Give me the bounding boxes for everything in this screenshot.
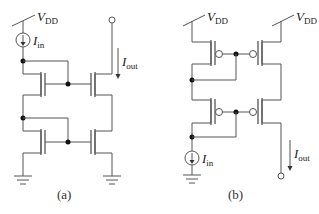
vdd-label-a: VDD [37, 9, 58, 26]
panel-b: VDD VDD [183, 9, 317, 202]
pmos-transistor-icon [192, 98, 223, 125]
arrow-down-icon [116, 48, 121, 79]
caption-b: (b) [228, 187, 243, 202]
iin-label-a: Iin [32, 33, 45, 50]
iin-label-b: Iin [201, 151, 214, 168]
panel-a: VDD Iin [12, 9, 138, 202]
ground-icon [103, 176, 121, 184]
iout-label-b: Iout [293, 146, 310, 163]
pmos-transistor-icon [250, 40, 282, 66]
pmos-transistor-icon [250, 98, 282, 125]
current-source-icon [16, 33, 30, 47]
arrow-down-icon [288, 140, 293, 171]
nmos-transistor-icon [91, 72, 112, 97]
nmos-transistor-icon [23, 72, 45, 97]
ground-icon [14, 176, 32, 184]
output-terminal-icon [109, 17, 115, 23]
caption-a: (a) [57, 187, 71, 202]
ground-icon [183, 175, 201, 183]
nmos-transistor-icon [23, 129, 45, 155]
output-terminal-icon [278, 173, 284, 179]
pmos-transistor-icon [192, 40, 223, 66]
gate-node-dot [66, 140, 71, 145]
vdd-label-b-left: VDD [207, 9, 228, 26]
circuit-figure: VDD Iin [0, 0, 319, 214]
iout-label-a: Iout [121, 54, 138, 71]
vdd-rail-b-right [272, 15, 294, 26]
vdd-label-b-right: VDD [296, 9, 317, 26]
gate-node-dot [66, 82, 71, 87]
current-source-icon [185, 151, 199, 165]
circuit-diagram: VDD Iin [0, 0, 319, 214]
nmos-transistor-icon [91, 129, 112, 155]
vdd-rail-b-left [183, 15, 205, 26]
